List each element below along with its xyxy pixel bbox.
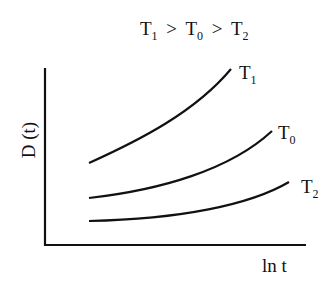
curve-t2 xyxy=(89,182,289,221)
curve-t0 xyxy=(89,131,272,198)
label-t0: T0 xyxy=(278,122,296,147)
curve-t1 xyxy=(89,69,231,163)
x-axis-label: ln t xyxy=(262,255,288,276)
chart: T1 > T0 > T2 D (t) ln t T1 T0 T2 xyxy=(0,0,335,287)
chart-title: T1 > T0 > T2 xyxy=(140,18,249,44)
label-t2: T2 xyxy=(301,176,319,201)
y-axis-label: D (t) xyxy=(18,122,40,158)
label-t1: T1 xyxy=(239,62,257,87)
